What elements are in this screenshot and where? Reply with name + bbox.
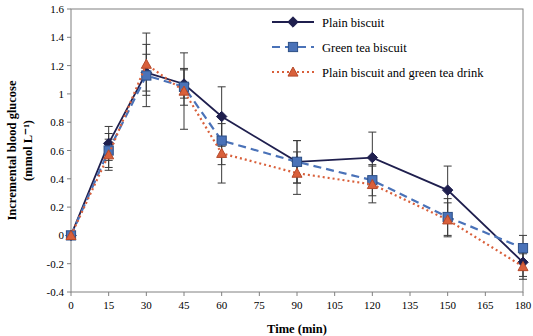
x-axis-tick-label: 30	[141, 299, 153, 311]
x-axis-tick-label: 135	[402, 299, 419, 311]
y-axis-tick-label: 0	[59, 229, 65, 241]
y-axis-tick-label: 0.6	[50, 145, 64, 157]
legend-marker-green-tea-biscuit	[288, 42, 297, 51]
x-axis-tick-label: 75	[254, 299, 266, 311]
data-point-green-tea-biscuit	[217, 136, 226, 145]
x-axis-tick-label: 105	[326, 299, 343, 311]
legend-label-plain-biscuit: Plain biscuit	[322, 16, 385, 30]
x-axis-tick-label: 90	[292, 299, 304, 311]
x-axis-tick-label: 15	[103, 299, 115, 311]
y-axis-tick-label: 0.4	[50, 173, 64, 185]
x-axis-tick-label: 45	[179, 299, 191, 311]
x-axis-tick-label: 120	[364, 299, 381, 311]
y-axis-tick-label: 1.2	[50, 60, 64, 72]
legend-label-plain-biscuit-and-green-tea-drink: Plain biscuit and green tea drink	[322, 66, 484, 80]
x-axis-title: Time (min)	[267, 322, 327, 336]
chart-container: -0.4-0.200.20.40.60.811.21.41.6015304560…	[0, 0, 533, 336]
data-point-green-tea-biscuit	[142, 71, 151, 80]
y-axis-tick-label: 1	[59, 88, 65, 100]
x-axis-tick-label: 150	[439, 299, 456, 311]
legend-label-green-tea-biscuit: Green tea biscuit	[322, 41, 407, 55]
y-axis-tick-label: 1.4	[50, 31, 64, 43]
y-axis-tick-label: 1.6	[50, 3, 64, 15]
y-axis-title-line1: Incremental blood glucose	[5, 80, 19, 220]
y-axis-tick-label: 0.2	[50, 201, 64, 213]
x-axis-tick-label: 165	[477, 299, 494, 311]
x-axis-tick-label: 180	[515, 299, 532, 311]
y-axis-tick-label: 0.8	[50, 116, 64, 128]
x-axis-tick-label: 60	[216, 299, 228, 311]
y-axis-tick-label: -0.4	[47, 286, 65, 298]
y-axis-tick-label: -0.2	[47, 258, 64, 270]
y-axis-title-line2: (mmol L⁻¹)	[21, 120, 35, 181]
data-point-green-tea-biscuit	[518, 244, 527, 253]
data-point-green-tea-biscuit	[292, 157, 301, 166]
line-chart: -0.4-0.200.20.40.60.811.21.41.6015304560…	[0, 0, 533, 336]
x-axis-tick-label: 0	[68, 299, 74, 311]
